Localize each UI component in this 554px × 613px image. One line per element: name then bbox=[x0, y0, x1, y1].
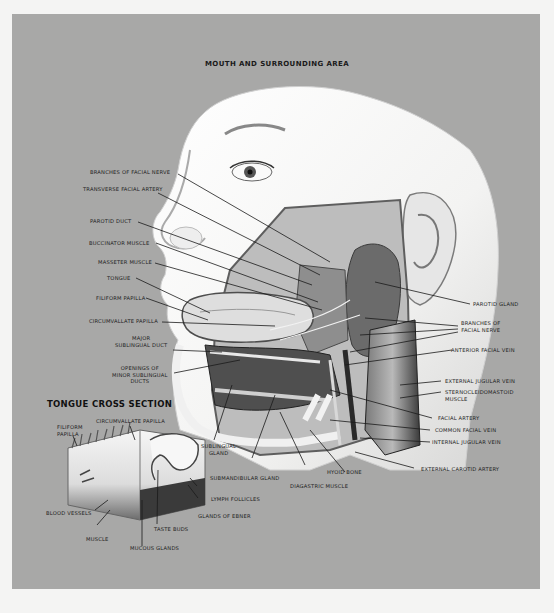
label-parotid-gland: PAROTID GLAND bbox=[473, 301, 518, 308]
label-circumvallate-papilla: CIRCUMVALLATE PAPILLA bbox=[89, 318, 158, 325]
label-muscle: MUSCLE bbox=[86, 536, 109, 543]
plate-title: MOUTH AND SURROUNDING AREA bbox=[0, 60, 554, 68]
label-taste-buds: TASTE BUDS bbox=[154, 526, 188, 533]
label-internal-jugular-vein: INTERNAL JUGULAR VEIN bbox=[432, 439, 501, 446]
label-glands-of-ebner: GLANDS OF EBNER bbox=[198, 513, 251, 520]
label-circumvallate-papilla-inset: CIRCUMVALLATE PAPILLA bbox=[96, 418, 165, 425]
label-filiform-papilla: FILIFORM PAPILLA bbox=[96, 295, 145, 302]
label-external-carotid-artery: EXTERNAL CAROTID ARTERY bbox=[421, 466, 499, 473]
label-submandibular-gland: SUBMANDIBULAR GLAND bbox=[210, 475, 280, 482]
label-major-sublingual-duct: MAJOR SUBLINGUAL DUCT bbox=[115, 335, 167, 348]
label-sublingual-gland: SUBLINGUAL GLAND bbox=[201, 443, 236, 456]
label-masseter-muscle: MASSETER MUSCLE bbox=[98, 259, 152, 266]
label-blood-vessels: BLOOD VESSELS bbox=[46, 510, 92, 517]
tongue-cross-section-inset bbox=[68, 422, 205, 520]
inset-title: TONGUE CROSS SECTION bbox=[47, 399, 172, 409]
label-common-facial-vein: COMMON FACIAL VEIN bbox=[435, 427, 496, 434]
label-hyoid-bone: HYOID BONE bbox=[327, 469, 362, 476]
label-external-jugular-vein: EXTERNAL JUGULAR VEIN bbox=[445, 378, 515, 385]
label-sternocleidomastoid-muscle: STERNOCLEIDOMASTOID MUSCLE bbox=[445, 389, 514, 402]
label-openings-minor-sublingual-ducts: OPENINGS OF MINOR SUBLINGUAL DUCTS bbox=[112, 365, 168, 385]
label-facial-artery: FACIAL ARTERY bbox=[438, 415, 479, 422]
label-branches-of-facial-nerve: BRANCHES OF FACIAL NERVE bbox=[90, 169, 170, 176]
label-buccinator-muscle: BUCCINATOR MUSCLE bbox=[89, 240, 149, 247]
label-transverse-facial-artery: TRANSVERSE FACIAL ARTERY bbox=[83, 186, 163, 193]
label-diagastric-muscle: DIAGASTRIC MUSCLE bbox=[290, 483, 348, 490]
label-parotid-duct: PAROTID DUCT bbox=[90, 218, 131, 225]
label-branches-of-facial-nerve-right: BRANCHES OF FACIAL NERVE bbox=[461, 320, 500, 333]
anatomy-illustration bbox=[0, 0, 554, 613]
label-tongue: TONGUE bbox=[107, 275, 130, 282]
label-lymph-follicles: LYMPH FOLLICLES bbox=[211, 496, 260, 503]
label-mucous-glands: MUCOUS GLANDS bbox=[130, 545, 179, 552]
label-anterior-facial-vein: ANTERIOR FACIAL VEIN bbox=[451, 347, 515, 354]
label-filiform-papilla-inset: FILIFORM PAPILLA bbox=[57, 424, 83, 437]
